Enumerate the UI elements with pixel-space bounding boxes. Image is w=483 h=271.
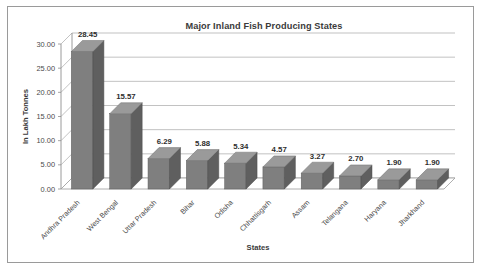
data-label-jharkhand: 1.90 bbox=[425, 158, 441, 167]
category-label-jharkhand: Jharkhand bbox=[396, 198, 426, 228]
data-label-uttar-pradesh: 6.29 bbox=[157, 137, 173, 146]
category-label-bihar: Bihar bbox=[178, 198, 197, 217]
bar-front-face bbox=[71, 51, 92, 189]
bar-bihar[interactable] bbox=[186, 150, 218, 189]
data-label-telangana: 2.70 bbox=[348, 154, 364, 163]
depth-connector-25.00 bbox=[61, 57, 72, 68]
category-label-andhra-pradesh: Andhra Pradesh bbox=[38, 198, 81, 241]
ytick-label-5.00: 5.00 bbox=[41, 160, 55, 169]
y-axis-title: In Lakh Tonnes bbox=[21, 89, 30, 144]
bar-front-face bbox=[301, 173, 322, 189]
bar-front-face bbox=[225, 163, 246, 189]
bar-front-face bbox=[416, 180, 437, 189]
bar-west-bengal[interactable] bbox=[110, 103, 142, 189]
bar-front-face bbox=[148, 159, 169, 189]
data-label-andhra-pradesh: 28.45 bbox=[78, 30, 98, 39]
category-label-uttar-pradesh: Uttar Pradesh bbox=[120, 198, 158, 236]
chart-container: Major Inland Fish Producing States0.005.… bbox=[7, 6, 474, 263]
data-label-odisha: 5.34 bbox=[233, 142, 249, 151]
category-label-assam: Assam bbox=[289, 198, 311, 220]
data-label-west-bengal: 15.57 bbox=[116, 92, 136, 101]
bar-side-face bbox=[131, 103, 142, 189]
bar-front-face bbox=[378, 180, 399, 189]
bar-chart: Major Inland Fish Producing States0.005.… bbox=[8, 7, 473, 262]
chart-title: Major Inland Fish Producing States bbox=[185, 21, 342, 31]
depth-connector-5.00 bbox=[61, 154, 72, 165]
category-label-west-bengal: West Bengal bbox=[85, 198, 120, 233]
bar-front-face bbox=[340, 176, 361, 189]
category-label-telangana: Telangana bbox=[320, 198, 350, 228]
bar-front-face bbox=[110, 114, 131, 189]
data-label-assam: 3.27 bbox=[310, 152, 325, 161]
data-label-bihar: 5.88 bbox=[195, 139, 211, 148]
category-label-odisha: Odisha bbox=[212, 198, 234, 220]
ytick-label-15.00: 15.00 bbox=[37, 112, 56, 121]
category-label-haryana: Haryana bbox=[362, 198, 388, 224]
depth-connector-20.00 bbox=[61, 81, 72, 92]
depth-connector-30.00 bbox=[61, 33, 72, 44]
ytick-label-0.00: 0.00 bbox=[41, 185, 55, 194]
bar-andhra-pradesh[interactable] bbox=[71, 40, 103, 189]
ytick-label-10.00: 10.00 bbox=[37, 136, 56, 145]
category-label-chhattisgarh: Chhattisgarh bbox=[238, 198, 273, 233]
ytick-label-25.00: 25.00 bbox=[37, 64, 56, 73]
ytick-label-30.00: 30.00 bbox=[37, 40, 56, 49]
data-label-haryana: 1.90 bbox=[386, 158, 402, 167]
bar-front-face bbox=[263, 167, 284, 189]
x-axis-title: States bbox=[247, 243, 270, 252]
ytick-label-20.00: 20.00 bbox=[37, 88, 56, 97]
data-label-chhattisgarh: 4.57 bbox=[272, 145, 287, 154]
depth-connector-15.00 bbox=[61, 106, 72, 117]
bar-side-face bbox=[93, 40, 104, 189]
bar-front-face bbox=[186, 161, 207, 189]
depth-connector-10.00 bbox=[61, 130, 72, 141]
bar-uttar-pradesh[interactable] bbox=[148, 148, 180, 189]
